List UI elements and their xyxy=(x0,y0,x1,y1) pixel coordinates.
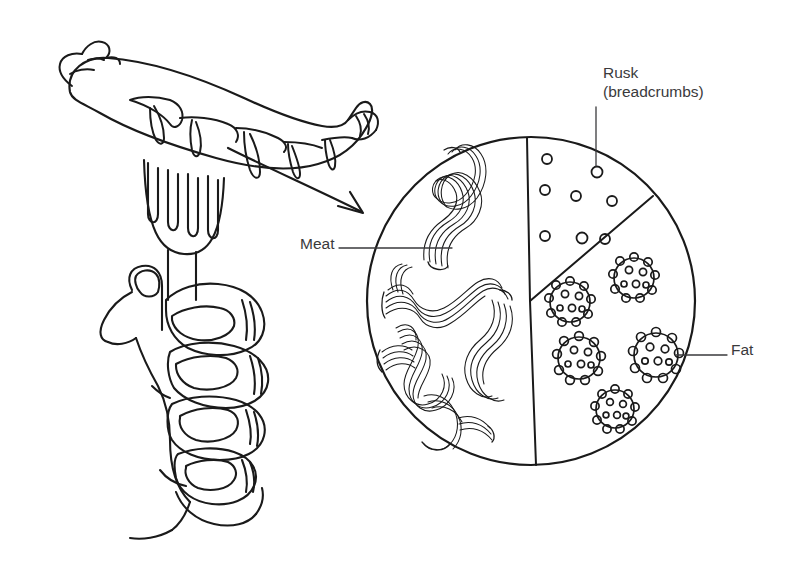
rusk-particles xyxy=(540,154,617,244)
sausage-split-marks xyxy=(130,97,352,178)
meat-fibres xyxy=(377,145,512,450)
label-fat: Fat xyxy=(731,340,753,359)
fork xyxy=(144,160,224,300)
label-rusk-line1: Rusk xyxy=(603,64,638,81)
sausage-end-left xyxy=(60,42,120,86)
fat-globules xyxy=(545,253,684,433)
hand-fist xyxy=(101,266,269,539)
segment-divider-vertical-top xyxy=(527,138,530,301)
segment-divider-vertical-bottom xyxy=(530,301,536,465)
segment-divider-diagonal xyxy=(530,196,653,301)
sausage-end-right xyxy=(348,111,378,139)
label-rusk-line2: (breadcrumbs) xyxy=(603,83,704,100)
label-rusk: Rusk(breadcrumbs) xyxy=(603,63,704,101)
label-meat: Meat xyxy=(300,234,334,253)
illustration-canvas: Rusk(breadcrumbs) Meat Fat xyxy=(0,0,800,562)
